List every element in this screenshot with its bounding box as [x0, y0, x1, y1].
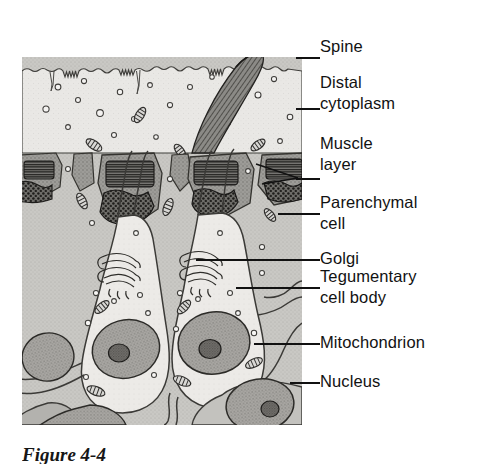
label-parenchymal-cell-line2: cell [320, 214, 345, 234]
figure-root: Spine Distal cytoplasm Muscle layer Pare… [0, 0, 477, 464]
label-parenchymal-cell-line1: Parenchymal [320, 193, 417, 213]
label-golgi: Golgi [320, 249, 359, 269]
nucleolus-right [199, 340, 221, 359]
label-mitochondrion: Mitochondrion [320, 333, 425, 353]
label-distal-cytoplasm-line2: cytoplasm [320, 94, 395, 114]
label-distal-cytoplasm-line1: Distal [320, 73, 362, 93]
figure-caption: Figure 4-4 [22, 444, 322, 464]
label-muscle-layer-line1: Muscle [320, 134, 373, 154]
label-nucleus: Nucleus [320, 372, 380, 392]
label-tegumentary-cell-line2: cell body [320, 288, 386, 308]
distal-cytoplasm-layer [22, 67, 302, 160]
label-spine: Spine [320, 37, 363, 57]
tegument-diagram-panel [22, 57, 302, 425]
nucleolus-left [109, 344, 130, 362]
label-muscle-layer-line2: layer [320, 155, 356, 175]
label-tegumentary-cell-line1: Tegumentary [320, 267, 416, 287]
longitudinal-muscle [106, 161, 154, 187]
